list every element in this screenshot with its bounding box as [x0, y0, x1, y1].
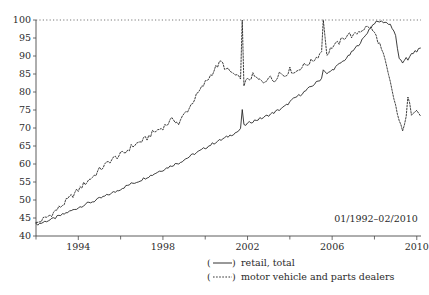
y-tick-label-90: 90 — [19, 50, 31, 61]
legend: ( ) retail, total ( ) motor vehicle and … — [207, 257, 394, 282]
x-tick-label-2002: 2002 — [235, 241, 259, 252]
date-range-annotation: 01/1992–02/2010 — [334, 213, 418, 224]
y-tick-label-95: 95 — [19, 32, 31, 43]
series-line-retail-total — [36, 21, 420, 225]
y-tick-label-60: 60 — [19, 158, 31, 169]
y-tick-label-85: 85 — [19, 68, 31, 79]
series-line-motor-vehicle-parts-dealers — [36, 20, 420, 222]
y-tick-label-75: 75 — [19, 104, 31, 115]
legend-marker-0: ( — [207, 257, 211, 268]
y-tick-label-65: 65 — [19, 140, 31, 151]
chart-figure: 404550556065707580859095100 199419982002… — [0, 0, 429, 295]
y-tick-label-45: 45 — [19, 212, 31, 223]
y-tick-label-70: 70 — [19, 122, 31, 133]
x-tick-label-2006: 2006 — [320, 241, 344, 252]
legend-marker-1: ( — [207, 271, 211, 282]
x-axis-tick-marks — [36, 236, 417, 240]
legend-paren-close-0: ) — [232, 257, 236, 268]
legend-label-motor-vehicle: motor vehicle and parts dealers — [241, 271, 394, 282]
y-tick-label-40: 40 — [19, 230, 31, 241]
x-tick-label-1998: 1998 — [151, 241, 175, 252]
legend-label-retail-total: retail, total — [241, 257, 295, 268]
time-series-chart: 404550556065707580859095100 199419982002… — [0, 0, 429, 295]
legend-paren-close-1: ) — [232, 271, 236, 282]
y-axis-tick-labels: 404550556065707580859095100 — [13, 14, 31, 241]
y-tick-label-80: 80 — [19, 86, 31, 97]
x-axis-tick-labels: 19941998200220062010 — [66, 241, 429, 252]
y-tick-label-50: 50 — [19, 194, 31, 205]
x-tick-label-2010: 2010 — [405, 241, 429, 252]
y-tick-label-55: 55 — [19, 176, 31, 187]
x-tick-label-1994: 1994 — [66, 241, 90, 252]
y-tick-label-100: 100 — [13, 14, 31, 25]
